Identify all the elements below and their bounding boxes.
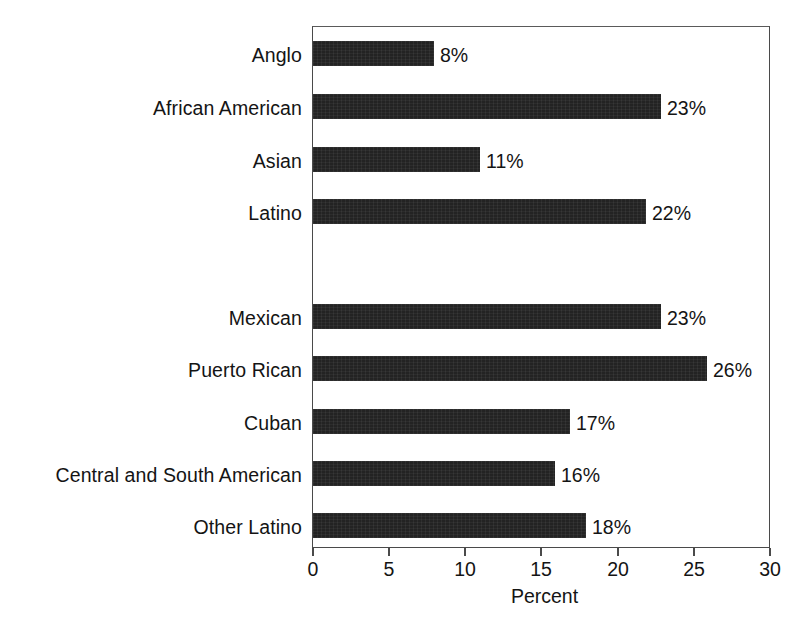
category-label-puerto-rican: Puerto Rican xyxy=(188,361,302,381)
category-label-mexican: Mexican xyxy=(229,309,302,329)
category-label-cuban: Cuban xyxy=(244,414,302,434)
value-label-puerto-rican: 26% xyxy=(713,361,752,381)
x-tick-label-10: 10 xyxy=(454,560,476,580)
x-tick-mark-15 xyxy=(540,548,542,556)
bar-asian xyxy=(313,147,480,172)
category-label-anglo: Anglo xyxy=(252,46,302,66)
category-label-latino: Latino xyxy=(248,204,302,224)
x-tick-label-20: 20 xyxy=(607,560,629,580)
category-label-other-latino: Other Latino xyxy=(193,518,302,538)
x-tick-label-5: 5 xyxy=(384,560,395,580)
x-tick-label-15: 15 xyxy=(530,560,552,580)
value-label-central-and-south-american: 16% xyxy=(561,466,600,486)
x-tick-mark-0 xyxy=(312,548,314,556)
x-tick-mark-10 xyxy=(464,548,466,556)
x-tick-label-30: 30 xyxy=(759,560,781,580)
x-tick-mark-20 xyxy=(617,548,619,556)
bar-other-latino xyxy=(313,513,586,538)
bar-puerto-rican xyxy=(313,356,707,381)
value-label-latino: 22% xyxy=(652,204,691,224)
x-tick-label-0: 0 xyxy=(308,560,319,580)
x-tick-mark-25 xyxy=(693,548,695,556)
bar-anglo xyxy=(313,41,434,66)
x-tick-mark-30 xyxy=(769,548,771,556)
value-label-cuban: 17% xyxy=(576,414,615,434)
bar-african-american xyxy=(313,94,661,119)
value-label-african-american: 23% xyxy=(667,99,706,119)
value-label-mexican: 23% xyxy=(667,309,706,329)
value-label-asian: 11% xyxy=(486,152,524,172)
bar-cuban xyxy=(313,409,570,434)
value-label-other-latino: 18% xyxy=(592,518,631,538)
bar-latino xyxy=(313,199,646,224)
bar-central-and-south-american xyxy=(313,461,555,486)
bar-chart: Anglo African American Asian Latino Mexi… xyxy=(0,0,797,625)
category-label-central-and-south-american: Central and South American xyxy=(56,466,303,486)
x-axis-title-text: Percent xyxy=(511,587,578,607)
x-tick-mark-5 xyxy=(388,548,390,556)
value-label-anglo: 8% xyxy=(440,46,468,66)
bar-mexican xyxy=(313,304,661,329)
x-tick-label-25: 25 xyxy=(683,560,705,580)
x-axis-title: Percent xyxy=(0,587,797,607)
category-label-african-american: African American xyxy=(153,99,302,119)
category-label-asian: Asian xyxy=(253,152,302,172)
